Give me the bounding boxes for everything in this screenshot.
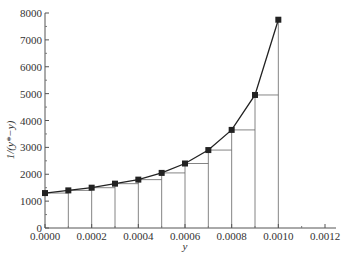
y-tick-label: 5000 — [20, 88, 43, 100]
x-tick-label: 0.0010 — [263, 230, 294, 242]
x-tick-label: 0.0000 — [30, 230, 61, 242]
y-tick-label: 2000 — [20, 168, 43, 180]
series-group — [42, 17, 281, 196]
x-axis-title: y — [182, 240, 188, 252]
chart-svg: 0100020003000400050006000700080000.00000… — [0, 0, 344, 262]
x-tick-label: 0.0002 — [77, 230, 107, 242]
data-marker — [65, 187, 71, 193]
data-marker — [182, 161, 188, 167]
data-marker — [205, 147, 211, 153]
data-line — [45, 20, 278, 193]
y-tick-label: 1000 — [20, 195, 43, 207]
x-tick-label: 0.0012 — [310, 230, 340, 242]
x-tick-label: 0.0008 — [217, 230, 248, 242]
y-tick-label: 4000 — [20, 115, 43, 127]
y-tick-label: 6000 — [20, 61, 43, 73]
x-tick-label: 0.0004 — [123, 230, 154, 242]
data-marker — [252, 92, 258, 98]
data-marker — [159, 170, 165, 176]
y-tick-label: 8000 — [20, 7, 43, 19]
y-tick-label: 7000 — [20, 34, 43, 46]
data-marker — [275, 17, 281, 23]
data-marker — [135, 177, 141, 183]
y-tick-label: 3000 — [20, 141, 43, 153]
rectangles-group — [45, 20, 278, 228]
data-marker — [229, 127, 235, 133]
data-marker — [89, 185, 95, 191]
data-marker — [42, 190, 48, 196]
y-axis-title: 1/(y*−y) — [4, 120, 17, 159]
data-marker — [112, 181, 118, 187]
